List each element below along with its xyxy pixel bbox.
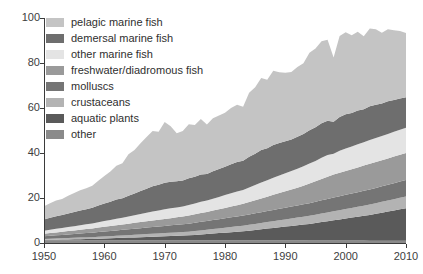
legend-item[interactable]: other marine fish xyxy=(46,46,203,62)
x-tick-label: 2000 xyxy=(323,250,369,262)
legend-swatch-icon xyxy=(46,82,64,91)
legend-item-label: freshwater/diadromous fish xyxy=(71,64,203,76)
y-axis-line xyxy=(44,18,45,244)
y-tick-mark xyxy=(40,63,44,64)
y-tick-label: 100 xyxy=(6,12,40,23)
y-tick-label: 60 xyxy=(6,102,40,113)
x-tick-mark xyxy=(406,244,407,248)
x-tick-label: 1970 xyxy=(142,250,188,262)
legend-item-label: other xyxy=(71,128,96,140)
legend-item-label: other marine fish xyxy=(71,48,153,60)
legend-item[interactable]: pelagic marine fish xyxy=(46,14,203,30)
legend-item[interactable]: molluscs xyxy=(46,78,203,94)
legend-item[interactable]: other xyxy=(46,126,203,142)
y-tick-mark xyxy=(40,18,44,19)
legend-swatch-icon xyxy=(46,130,64,139)
x-tick-mark xyxy=(165,244,166,248)
legend-swatch-icon xyxy=(46,66,64,75)
x-tick-label: 2010 xyxy=(383,250,423,262)
x-tick-mark xyxy=(44,244,45,248)
legend-item[interactable]: crustaceans xyxy=(46,94,203,110)
y-tick-mark xyxy=(40,153,44,154)
x-tick-label: 1960 xyxy=(81,250,127,262)
legend-swatch-icon xyxy=(46,114,64,123)
y-tick-mark xyxy=(40,108,44,109)
y-tick-label: 20 xyxy=(6,192,40,203)
y-tick: 100 xyxy=(0,12,40,23)
y-tick-label: 0 xyxy=(6,237,40,248)
y-tick: 80 xyxy=(0,57,40,68)
x-tick-mark xyxy=(225,244,226,248)
legend-item[interactable]: freshwater/diadromous fish xyxy=(46,62,203,78)
y-tick: 60 xyxy=(0,102,40,113)
chart-legend: pelagic marine fishdemersal marine fisho… xyxy=(46,14,203,142)
y-tick: 40 xyxy=(0,147,40,158)
legend-item-label: aquatic plants xyxy=(71,112,139,124)
x-tick-mark xyxy=(285,244,286,248)
legend-item[interactable]: demersal marine fish xyxy=(46,30,203,46)
legend-item-label: molluscs xyxy=(71,80,114,92)
legend-item-label: pelagic marine fish xyxy=(71,16,163,28)
x-tick-mark xyxy=(104,244,105,248)
y-tick-label: 40 xyxy=(6,147,40,158)
legend-swatch-icon xyxy=(46,98,64,107)
x-tick-mark xyxy=(346,244,347,248)
y-tick-label: 80 xyxy=(6,57,40,68)
x-tick-label: 1950 xyxy=(21,250,67,262)
x-tick-label: 1990 xyxy=(262,250,308,262)
y-tick: 20 xyxy=(0,192,40,203)
legend-item-label: crustaceans xyxy=(71,96,130,108)
legend-item-label: demersal marine fish xyxy=(71,32,173,44)
legend-item[interactable]: aquatic plants xyxy=(46,110,203,126)
legend-swatch-icon xyxy=(46,50,64,59)
legend-swatch-icon xyxy=(46,34,64,43)
y-tick: 0 xyxy=(0,237,40,248)
x-tick-label: 1980 xyxy=(202,250,248,262)
y-tick-mark xyxy=(40,198,44,199)
legend-swatch-icon xyxy=(46,18,64,27)
